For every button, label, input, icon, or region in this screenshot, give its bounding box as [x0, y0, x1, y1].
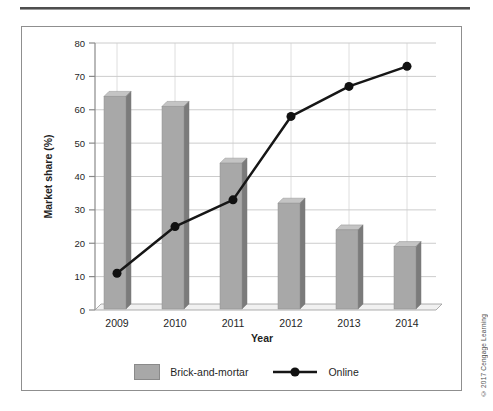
legend-label-online: Online [328, 366, 358, 378]
figure-page: Percentage of consumers who purchased bo… [0, 0, 493, 411]
legend-label-brick-and-mortar: Brick-and-mortar [170, 366, 262, 378]
clipped-title-text: Percentage of consumers who purchased bo… [13, 4, 481, 5]
chart-legend: Brick-and-mortar Online [0, 364, 493, 380]
chart-border-box [21, 26, 462, 391]
online-line-marker [272, 366, 318, 378]
brick-and-mortar-swatch [134, 364, 160, 380]
clipped-title: Percentage of consumers who purchased bo… [0, 0, 493, 5]
copyright-credit: © 2017 Cengage Learning [480, 314, 487, 397]
title-divider-rule [20, 7, 470, 10]
